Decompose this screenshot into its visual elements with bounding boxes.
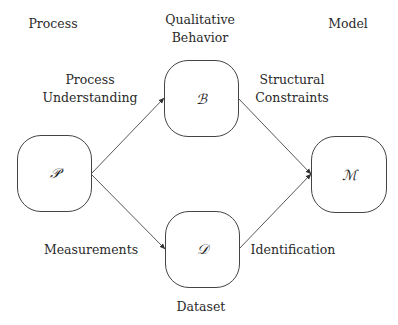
edge-label-identification: Identification — [251, 241, 336, 259]
node-process: 𝒫 — [17, 135, 92, 212]
header-model: Model — [328, 15, 368, 33]
behavior-symbol: ℬ — [196, 91, 207, 107]
arrow-dataset-to-model — [239, 174, 311, 249]
arrow-process-to-dataset — [91, 174, 165, 249]
edge-label-understanding: Understanding — [43, 89, 138, 107]
arrow-process-to-behavior — [91, 98, 164, 174]
header-behavior: Behavior — [172, 29, 229, 47]
node-model: ℳ — [311, 136, 387, 213]
model-symbol: ℳ — [342, 167, 357, 183]
node-behavior: ℬ — [164, 60, 239, 137]
edge-label-process: Process — [65, 71, 114, 89]
dataset-symbol: 𝒟 — [197, 241, 208, 258]
edge-label-constraints: Constraints — [255, 89, 329, 107]
header-qualitative: Qualitative — [165, 11, 235, 29]
label-dataset: Dataset — [177, 298, 226, 316]
edge-label-measurements: Measurements — [44, 241, 138, 259]
edge-label-structural: Structural — [259, 71, 324, 89]
header-process: Process — [28, 15, 77, 33]
node-dataset: 𝒟 — [165, 211, 240, 288]
process-symbol: 𝒫 — [50, 165, 60, 182]
arrow-behavior-to-model — [238, 98, 311, 174]
